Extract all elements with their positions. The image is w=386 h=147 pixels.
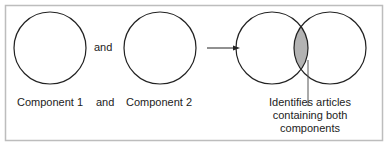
label-component2: Component 2 xyxy=(126,96,192,108)
between-circles-and: and xyxy=(94,41,112,53)
label-component1: Component 1 xyxy=(17,96,83,108)
intersection-annotation: Identifies articles containing both comp… xyxy=(258,96,362,135)
annotation-line1: Identifies articles xyxy=(258,96,362,109)
annotation-line3: components xyxy=(258,122,362,135)
annotation-line2: containing both xyxy=(258,109,362,122)
component1-circle xyxy=(14,12,86,84)
label-and: and xyxy=(96,96,114,108)
component2-circle xyxy=(124,12,196,84)
